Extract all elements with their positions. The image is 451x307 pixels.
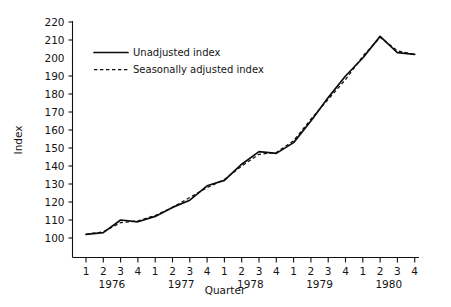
x-tick-label-quarter: 1	[290, 265, 297, 277]
x-axis-year-label: 1979	[306, 278, 333, 290]
x-tick-label-quarter: 3	[186, 265, 193, 277]
x-axis: 12341234123412341234 1976197719781979198…	[73, 258, 420, 297]
legend-label-seasonally-adjusted-index: Seasonally adjusted index	[133, 64, 264, 75]
x-tick-label-quarter: 2	[377, 265, 384, 277]
y-tick-label: 120	[44, 196, 64, 208]
y-tick-label: 190	[44, 70, 64, 82]
chart-canvas: 100110120130140150160170180190200210220 …	[0, 0, 451, 307]
x-tick-label-quarter: 1	[83, 265, 90, 277]
x-tick-label-quarter: 3	[117, 265, 124, 277]
legend-label-unadjusted-index: Unadjusted index	[133, 47, 220, 58]
x-tick-label-quarter: 3	[256, 265, 263, 277]
y-tick-label: 200	[44, 52, 64, 64]
x-tick-label-quarter: 2	[100, 265, 107, 277]
y-tick-label: 180	[44, 88, 64, 100]
y-tick-label: 140	[44, 160, 64, 172]
x-axis-year-label: 1977	[168, 278, 195, 290]
y-axis: 100110120130140150160170180190200210220 …	[12, 16, 73, 258]
x-tick-label-quarter: 1	[221, 265, 228, 277]
x-tick-label-quarter: 2	[308, 265, 315, 277]
x-axis-quarter-labels: 12341234123412341234	[83, 265, 419, 277]
y-axis-title: Index	[12, 126, 24, 155]
y-tick-label: 160	[44, 124, 64, 136]
y-tick-label: 130	[44, 178, 64, 190]
x-tick-label-quarter: 1	[359, 265, 366, 277]
x-tick-label-quarter: 2	[169, 265, 176, 277]
x-tick-label-quarter: 4	[411, 265, 418, 277]
x-axis-tick-marks	[86, 258, 415, 263]
y-tick-label: 220	[44, 16, 64, 28]
x-tick-label-quarter: 1	[152, 265, 159, 277]
x-tick-label-quarter: 3	[394, 265, 401, 277]
x-tick-label-quarter: 3	[325, 265, 332, 277]
x-tick-label-quarter: 4	[135, 265, 142, 277]
x-tick-label-quarter: 2	[238, 265, 245, 277]
x-tick-label-quarter: 4	[204, 265, 211, 277]
y-tick-label: 110	[44, 214, 64, 226]
chart-figure: 100110120130140150160170180190200210220 …	[0, 0, 451, 307]
x-axis-year-label: 1980	[375, 278, 402, 290]
x-axis-year-label: 1976	[99, 278, 126, 290]
x-axis-year-labels: 19761977197819791980	[99, 278, 403, 290]
y-tick-label: 210	[44, 34, 64, 46]
x-tick-label-quarter: 4	[342, 265, 349, 277]
legend: Unadjusted index Seasonally adjusted ind…	[94, 47, 264, 75]
y-tick-label: 100	[44, 232, 64, 244]
y-axis-tick-marks	[69, 22, 73, 238]
y-tick-label: 150	[44, 142, 64, 154]
y-tick-label: 170	[44, 106, 64, 118]
y-axis-tick-labels: 100110120130140150160170180190200210220	[44, 16, 64, 244]
x-tick-label-quarter: 4	[273, 265, 280, 277]
x-axis-title: Quarter	[205, 284, 246, 296]
